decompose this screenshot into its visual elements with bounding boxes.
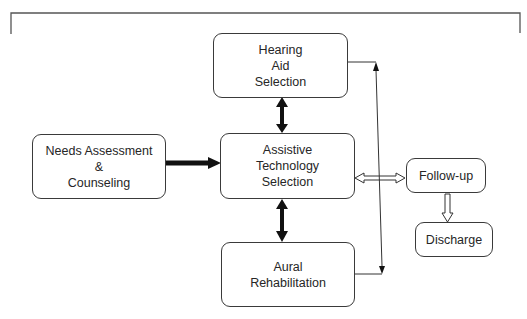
arrow-hearing-assistive <box>276 97 288 133</box>
arrow-assistive-followup <box>355 173 405 183</box>
node-label: Hearing Aid Selection <box>255 42 306 90</box>
arrow-followup-discharge <box>442 194 453 222</box>
arrow-needs-to-assistive <box>166 157 221 169</box>
node-aural-rehabilitation: Aural Rehabilitation <box>221 242 355 307</box>
arrow-assistive-aural <box>276 199 288 242</box>
node-follow-up: Follow-up <box>406 158 486 193</box>
node-label: Assistive Technology Selection <box>256 142 319 190</box>
node-assistive-technology-selection: Assistive Technology Selection <box>220 133 355 199</box>
node-hearing-aid-selection: Hearing Aid Selection <box>213 33 348 98</box>
node-discharge: Discharge <box>415 222 493 257</box>
node-label: Needs Assessment & Counseling <box>46 143 153 191</box>
flowchart-canvas: Hearing Aid Selection Needs Assessment &… <box>0 0 527 319</box>
node-label: Discharge <box>426 232 482 248</box>
node-label: Aural Rehabilitation <box>250 259 326 291</box>
top-bracket <box>11 13 520 34</box>
node-needs-assessment-counseling: Needs Assessment & Counseling <box>32 134 166 199</box>
node-label: Follow-up <box>419 168 473 184</box>
